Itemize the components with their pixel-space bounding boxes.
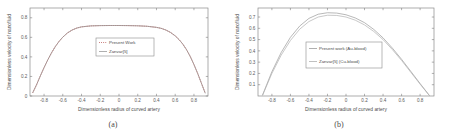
y-tick-label: 0.6 <box>21 35 28 40</box>
y-tick-label: 0.5 <box>249 37 256 42</box>
y-tick-label: 0 <box>25 94 28 99</box>
y-tick-label: 0.3 <box>249 60 256 65</box>
y-tick-label: 0.1 <box>249 82 256 87</box>
x-axis-title-b: Dimensionless radius of curved artery <box>305 107 387 112</box>
y-axis-title-a: Dimensionless velocity of nanofluid <box>7 14 12 90</box>
y-tick-label: 0.7 <box>249 15 256 20</box>
legend-entry-label: Present work (Au-blood) <box>319 46 367 51</box>
legend-entry-label: Zanvar[5] (Cu-blood) <box>319 59 360 64</box>
y-tick-label: 0.2 <box>249 71 256 76</box>
y-tick-label: 0.8 <box>21 15 28 20</box>
legend-a[interactable]: Present WorkZanvar[5] <box>96 38 154 56</box>
plot-area-a: -0.8-0.6-0.4-0.200.20.40.60.8 00.20.40.6… <box>0 0 226 120</box>
x-tick-label: 0.6 <box>172 98 179 103</box>
x-tick-label: 0.2 <box>135 98 142 103</box>
legend-entry-label: Zanvar[5] <box>109 49 128 54</box>
x-axis-title-a: Dimensionless radius of curved artery <box>78 107 160 112</box>
y-axis-title-b: Dimensionless velocity of nanofluid <box>235 14 240 90</box>
plot-area-b: -0.8-0.6-0.4-0.200.20.40.60.8 0.10.20.30… <box>226 0 452 120</box>
subplot-caption-a: (a) <box>0 120 226 129</box>
x-tick-label: 0.8 <box>191 98 198 103</box>
legend-entry-label: Present Work <box>109 40 136 45</box>
x-tick-label: -0.8 <box>268 98 276 103</box>
x-tick-label: 0.4 <box>153 98 160 103</box>
x-tick-label: -0.8 <box>40 98 48 103</box>
x-tick-label: 0.2 <box>361 98 368 103</box>
x-tick-label: 0.6 <box>398 98 405 103</box>
subplot-b: -0.8-0.6-0.4-0.200.20.40.60.8 0.10.20.30… <box>226 0 452 139</box>
x-tick-label: -0.6 <box>59 98 67 103</box>
x-tick-label: -0.4 <box>305 98 313 103</box>
x-tick-label: -0.2 <box>324 98 332 103</box>
y-tick-label: 0.2 <box>21 74 28 79</box>
x-tick-label: -0.4 <box>78 98 86 103</box>
x-tick-label: 0.8 <box>417 98 424 103</box>
subplot-caption-b: (b) <box>226 120 452 129</box>
x-tick-label: 0.4 <box>380 98 387 103</box>
figure-container: -0.8-0.6-0.4-0.200.20.40.60.8 00.20.40.6… <box>0 0 452 139</box>
legend-b[interactable]: Present work (Au-blood)Zanvar[5] (Cu-blo… <box>306 42 382 68</box>
x-tick-label: 0 <box>345 98 348 103</box>
x-tick-label: -0.6 <box>286 98 294 103</box>
x-tick-label: -0.2 <box>96 98 104 103</box>
y-tick-label: 0.4 <box>21 55 28 60</box>
chart-svg-b: -0.8-0.6-0.4-0.200.20.40.60.8 0.10.20.30… <box>226 0 452 120</box>
chart-svg-a: -0.8-0.6-0.4-0.200.20.40.60.8 00.20.40.6… <box>0 0 226 120</box>
subplot-a: -0.8-0.6-0.4-0.200.20.40.60.8 00.20.40.6… <box>0 0 226 139</box>
y-tick-label: 0.6 <box>249 26 256 31</box>
y-tick-label: 0.4 <box>249 49 256 54</box>
x-tick-label: 0 <box>118 98 121 103</box>
